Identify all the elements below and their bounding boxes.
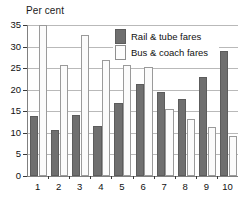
legend-swatch-bus [115, 45, 126, 60]
bar-bus-coach-fares [187, 119, 195, 176]
x-tick-label: 6 [133, 181, 153, 192]
legend-label: Rail & tube fares [131, 31, 201, 42]
bar-rail-tube-fares [157, 92, 165, 176]
chart-title: Per cent [26, 5, 64, 17]
x-tick-label: 3 [70, 181, 90, 192]
x-tick-mark [175, 176, 176, 179]
bar-group [70, 25, 91, 176]
bar-bus-coach-fares [229, 136, 237, 176]
x-tick-mark [48, 176, 49, 179]
y-tick-label: 25 [0, 63, 21, 73]
bar-rail-tube-fares [93, 126, 101, 176]
bar-bus-coach-fares [123, 65, 131, 176]
bar-bus-coach-fares [144, 67, 152, 176]
x-tick-label: 1 [28, 181, 48, 192]
bar-bus-coach-fares [39, 25, 47, 176]
legend-swatch-rail [115, 29, 126, 44]
y-tick-label: 35 [0, 20, 21, 30]
y-tick-label: 15 [0, 106, 21, 116]
legend-item: Rail & tube fares [115, 28, 208, 44]
bar-bus-coach-fares [102, 60, 110, 176]
bar-rail-tube-fares [136, 84, 144, 176]
bar-bus-coach-fares [60, 65, 68, 176]
chart-legend: Rail & tube faresBus & coach fares [115, 28, 208, 60]
y-tick-label: 0 [0, 171, 21, 181]
bar-bus-coach-fares [81, 35, 89, 177]
x-tick-label: 9 [196, 181, 216, 192]
x-tick-mark [133, 176, 134, 179]
bar-group [28, 25, 49, 176]
x-tick-label: 2 [49, 181, 69, 192]
x-tick-label: 5 [112, 181, 132, 192]
bar-rail-tube-fares [72, 115, 80, 176]
bar-rail-tube-fares [178, 99, 186, 176]
y-tick-label: 30 [0, 42, 21, 52]
bar-bus-coach-fares [165, 109, 173, 176]
x-tick-label: 8 [175, 181, 195, 192]
bar-group [91, 25, 112, 176]
x-tick-mark [196, 176, 197, 179]
x-tick-mark [69, 176, 70, 179]
bar-group [49, 25, 70, 176]
x-tick-label: 4 [91, 181, 111, 192]
x-tick-mark [154, 176, 155, 179]
x-tick-label: 7 [154, 181, 174, 192]
bar-rail-tube-fares [199, 77, 207, 176]
bar-bus-coach-fares [208, 127, 216, 176]
bar-chart: Per cent 05101520253035 12345678910 Rail… [0, 0, 238, 202]
bar-rail-tube-fares [30, 116, 38, 176]
x-tick-mark [90, 176, 91, 179]
bar-rail-tube-fares [220, 51, 228, 176]
bar-rail-tube-fares [114, 103, 122, 176]
bar-rail-tube-fares [51, 130, 59, 176]
x-tick-mark [111, 176, 112, 179]
y-tick-label: 10 [0, 128, 21, 138]
legend-item: Bus & coach fares [115, 44, 208, 60]
x-tick-mark [217, 176, 218, 179]
bar-group [218, 25, 238, 176]
x-tick-label: 10 [217, 181, 237, 192]
y-tick-label: 20 [0, 85, 21, 95]
legend-label: Bus & coach fares [131, 47, 208, 58]
y-tick-label: 5 [0, 149, 21, 159]
